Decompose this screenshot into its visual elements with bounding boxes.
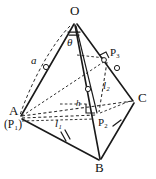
tick-circle-OC — [114, 65, 119, 70]
measure-label-theta: θ — [67, 37, 72, 48]
measure-label-l2: l₂ — [103, 80, 110, 91]
edge-BC — [101, 103, 134, 159]
measure-label-h: h — [76, 99, 81, 108]
tick-hash-BC — [113, 120, 121, 126]
tick-circle-OB — [85, 86, 90, 91]
tick-hash-AB-2 — [65, 130, 70, 139]
vertex-label-O: O — [70, 4, 79, 17]
point-label-P3: P₃ — [110, 47, 120, 58]
tick-circle-OA — [43, 64, 48, 69]
edge-A-P3-dashed — [22, 61, 105, 116]
vertex-label-A: A — [9, 104, 18, 117]
vertex-label-B: B — [95, 161, 104, 174]
tick-circle-P3 — [102, 58, 107, 63]
geometry-figure: O A (P₁) B C P₂ P₃ a h l₁ l₂ θ — [0, 0, 156, 179]
vertex-label-C: C — [138, 91, 147, 104]
arc-radius-a — [20, 26, 70, 115]
point-label-P2: P₂ — [98, 117, 108, 128]
measure-label-a: a — [31, 55, 37, 66]
figure-canvas — [0, 0, 156, 179]
point-label-P1: (P₁) — [4, 119, 22, 131]
measure-label-l1: l₁ — [55, 118, 62, 129]
edge-P2-C-dashed — [100, 101, 130, 113]
